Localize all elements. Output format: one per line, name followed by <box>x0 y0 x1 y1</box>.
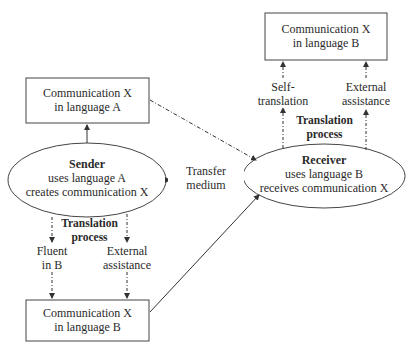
sender-fluent-label: Fluent in B <box>22 244 82 272</box>
arrow-a-to-receiver <box>150 100 256 160</box>
receiver-external-label: External assistance <box>331 80 401 108</box>
receiver-self-translation-label: Self- translation <box>248 80 318 108</box>
receiver-title: Receiver <box>243 153 405 167</box>
receiver-translation-title: Translation process <box>283 113 366 141</box>
sender-text: Sender uses language A creates communica… <box>8 157 166 199</box>
sender-translation-title: Translation process <box>52 216 127 244</box>
box-top-right-text: Communication X in language B <box>265 22 387 50</box>
sender-external-label: External assistance <box>92 244 162 272</box>
box-bottom-b-text: Communication X in language B <box>26 306 149 334</box>
arrow-bottom-to-receiver <box>150 195 259 312</box>
box-language-a-text: Communication X in language A <box>26 86 149 114</box>
receiver-text: Receiver uses language B receives commun… <box>243 153 405 195</box>
sender-title: Sender <box>8 157 166 171</box>
transfer-medium-label: Transfer medium <box>168 164 244 192</box>
